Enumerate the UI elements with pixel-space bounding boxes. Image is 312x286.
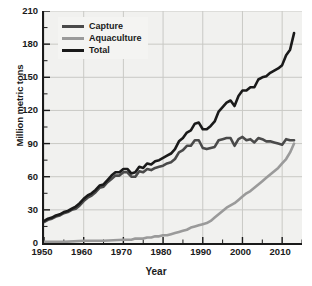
y-tick-label: 90	[0, 138, 38, 149]
y-tick-label: 120	[0, 104, 38, 115]
chart-legend: Capture Aquaculture Total	[58, 17, 148, 59]
x-tick-label: 2010	[260, 246, 300, 257]
legend-item-total: Total	[62, 44, 142, 56]
x-tick-label: 1980	[141, 246, 181, 257]
x-tick-label: 1960	[62, 246, 102, 257]
chart-figure: Million metric tons 0306090120150180210 …	[0, 0, 312, 286]
x-tick-label: 2000	[220, 246, 260, 257]
x-axis-title: Year	[0, 266, 312, 277]
y-tick-label: 30	[0, 204, 38, 215]
legend-label-aquaculture: Aquaculture	[89, 33, 142, 43]
y-tick-label: 210	[0, 5, 38, 16]
legend-swatch-aquaculture	[62, 37, 84, 40]
x-tick-label: 1950	[22, 246, 62, 257]
legend-label-capture: Capture	[89, 21, 123, 31]
y-tick-label: 180	[0, 38, 38, 49]
legend-item-capture: Capture	[62, 20, 142, 32]
legend-item-aquaculture: Aquaculture	[62, 32, 142, 44]
y-tick-label: 150	[0, 71, 38, 82]
y-tick-label: 60	[0, 171, 38, 182]
legend-swatch-capture	[62, 25, 84, 28]
legend-label-total: Total	[89, 45, 110, 55]
legend-swatch-total	[62, 49, 84, 52]
x-tick-label: 1990	[181, 246, 221, 257]
x-tick-label: 1970	[101, 246, 141, 257]
